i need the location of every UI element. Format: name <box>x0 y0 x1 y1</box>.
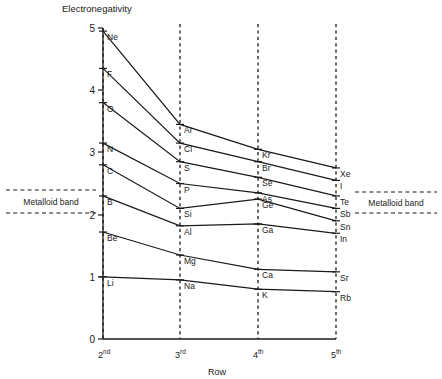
x-tick-label-4th: 4th <box>253 348 264 360</box>
y-axis-ticks: 0 1 2 3 4 5 <box>89 23 103 345</box>
element-label-te: Te <box>340 197 349 207</box>
element-label-li: Li <box>107 278 114 288</box>
series-line-group-17 <box>103 68 336 180</box>
series-line-group-16 <box>103 103 336 196</box>
element-label-sn: Sn <box>340 222 351 232</box>
series-line-group-18 <box>103 31 336 168</box>
x-tick-label-2nd: 2nd <box>98 348 111 360</box>
y-tick-label-2: 2 <box>89 210 95 221</box>
element-label-be: Be <box>107 233 118 243</box>
y-tick-label-4: 4 <box>89 85 95 96</box>
element-label-rb: Rb <box>340 293 351 303</box>
element-label-b: B <box>107 197 113 207</box>
element-label-cl: Cl <box>184 144 192 154</box>
series-line-group-14 <box>103 165 336 221</box>
element-label-k: K <box>262 290 268 300</box>
element-label-n: N <box>107 144 113 154</box>
y-axis-title: Electronegativity <box>62 3 132 14</box>
element-label-al: Al <box>184 227 192 237</box>
element-label-br: Br <box>262 163 271 173</box>
series-line-group-2 <box>103 232 336 272</box>
y-tick-label-0: 0 <box>89 334 95 345</box>
element-label-c: C <box>107 166 113 176</box>
x-tick-label-3rd: 3rd <box>175 348 186 360</box>
element-label-ne: Ne <box>107 32 118 42</box>
element-label-sb: Sb <box>340 209 351 219</box>
element-label-si: Si <box>184 209 192 219</box>
x-tick-label-5th: 5th <box>331 348 342 360</box>
element-label-sr: Sr <box>340 273 349 283</box>
element-label-ca: Ca <box>262 270 273 280</box>
element-label-ge: Ge <box>262 200 274 210</box>
element-label-mg: Mg <box>184 256 196 266</box>
metalloid-band-left-label: Metalloid band <box>23 197 79 207</box>
element-label-kr: Kr <box>262 150 271 160</box>
series-line-group-1 <box>103 277 336 292</box>
x-axis-title: Row <box>208 367 227 377</box>
x-axis-ticks: 2nd 3rd 4th 5th <box>98 348 342 360</box>
metalloid-band-left: Metalloid band <box>6 190 96 213</box>
element-label-f: F <box>107 69 112 79</box>
chart-canvas: Electronegativity 0 1 2 3 4 5 NeAr <box>0 0 442 379</box>
element-label-s: S <box>184 163 190 173</box>
element-label-ar: Ar <box>184 125 193 135</box>
element-label-se: Se <box>262 178 273 188</box>
electronegativity-chart: Electronegativity 0 1 2 3 4 5 NeAr <box>0 0 442 379</box>
element-label-i: I <box>340 181 342 191</box>
element-label-p: P <box>184 185 190 195</box>
series-layer <box>103 31 336 292</box>
element-label-ga: Ga <box>262 225 274 235</box>
element-label-in: In <box>340 234 347 244</box>
element-label-xe: Xe <box>340 169 351 179</box>
y-tick-label-3: 3 <box>89 147 95 158</box>
metalloid-band-right-label: Metalloid band <box>368 198 424 208</box>
element-label-o: O <box>107 104 114 114</box>
metalloid-band-right: Metalloid band <box>355 192 437 213</box>
element-label-na: Na <box>184 281 195 291</box>
y-tick-label-1: 1 <box>89 272 95 283</box>
element-labels-layer: NeArKrXeFClBrIOSSeTeNPAsSbCSiGeSnBAlGaIn… <box>107 32 351 303</box>
y-tick-label-5: 5 <box>89 23 95 34</box>
